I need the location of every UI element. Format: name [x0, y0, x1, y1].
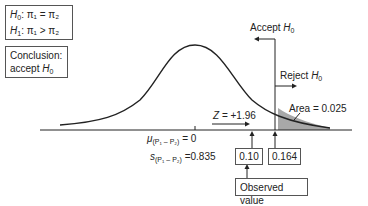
- alternative-hypothesis: H1: π₁ > π₂: [10, 24, 68, 40]
- reject-label: Reject H0: [280, 70, 322, 82]
- critical-arrowhead-icon: [273, 131, 278, 136]
- observed-value-label: Observed value: [235, 178, 308, 196]
- critical-value-box: 0.164: [268, 148, 301, 165]
- hypotheses-box: H0: π₁ = π₂ H1: π₁ > π₂: [5, 5, 73, 40]
- conclusion-box: Conclusion: accept H0: [5, 46, 68, 78]
- accept-arrowhead-icon: [254, 37, 259, 42]
- sd-label: s(P₁ – P₂) =0.835: [150, 151, 216, 163]
- observed-value-box: 0.10: [235, 148, 263, 165]
- mean-label: μ(P₁ – P₂) = 0: [147, 133, 196, 145]
- reject-arrowhead-icon: [292, 84, 297, 89]
- area-label: Area = 0.025: [289, 103, 347, 114]
- conclusion-text: accept H0: [10, 62, 63, 78]
- accept-label: Accept H0: [250, 22, 295, 34]
- observed-arrowhead-icon: [250, 131, 255, 136]
- z-label: Z = +1.96: [213, 110, 256, 121]
- null-hypothesis: H0: π₁ = π₂: [10, 8, 68, 24]
- conclusion-title: Conclusion:: [10, 49, 63, 62]
- z-arrowhead-icon: [245, 122, 250, 127]
